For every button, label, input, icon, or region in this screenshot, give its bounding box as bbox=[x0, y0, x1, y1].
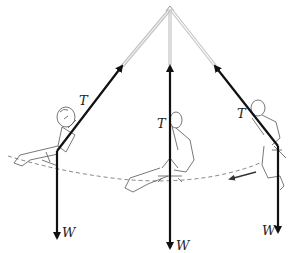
weight-label-right: W bbox=[262, 224, 275, 237]
child-figure-right bbox=[251, 100, 286, 190]
diagram-canvas bbox=[0, 0, 295, 253]
tension-arrow-right bbox=[215, 66, 278, 146]
rope-upper-segments bbox=[121, 9, 216, 67]
weight-label-middle: W bbox=[176, 239, 189, 252]
motion-direction-arrow bbox=[230, 172, 256, 179]
child-figure-left bbox=[14, 107, 76, 166]
tension-label-middle: T bbox=[157, 117, 166, 130]
tension-label-right: T bbox=[237, 107, 246, 120]
motion-arc bbox=[8, 156, 262, 181]
weight-label-left: W bbox=[62, 226, 75, 239]
tension-arrow-left bbox=[57, 66, 122, 151]
tension-label-left: T bbox=[79, 94, 88, 107]
swing-diagram: T T T W W W bbox=[0, 0, 295, 253]
